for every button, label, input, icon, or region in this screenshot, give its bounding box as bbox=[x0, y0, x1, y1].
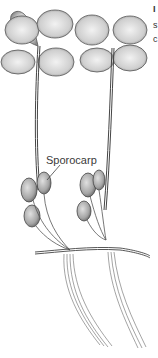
cut-text-3: c bbox=[153, 34, 158, 45]
cut-text-2: s bbox=[153, 20, 158, 31]
left-leaf-cluster bbox=[1, 10, 74, 76]
right-sporocarps bbox=[77, 170, 105, 221]
plant-illustration bbox=[0, 0, 158, 358]
sporocarp-label: Sporocarp bbox=[46, 154, 97, 166]
roots bbox=[64, 252, 146, 348]
rhizome bbox=[35, 247, 150, 258]
callout-line bbox=[47, 165, 60, 180]
left-sporocarps bbox=[21, 172, 51, 227]
cut-text-1: I bbox=[153, 4, 156, 15]
